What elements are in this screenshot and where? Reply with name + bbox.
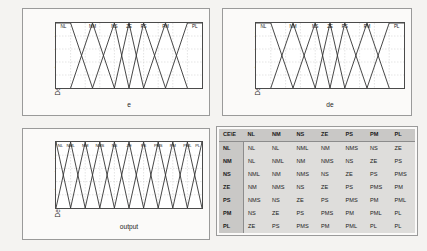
rule-cell-NL-NL: NL <box>244 142 269 156</box>
rule-cell-NS-NM: NM <box>268 168 293 181</box>
chart-panel-output: Degree of membership NLNMLNMNMSNSZEPSPMS… <box>22 128 210 240</box>
rule-cell-PL-ZE: PM <box>317 220 342 233</box>
rule-cell-PL-NL: ZE <box>244 220 269 233</box>
rule-table-row: NLNLNLNMLNMNMSNSZE <box>219 142 415 156</box>
rule-cell-PM-PM: PML <box>366 207 391 220</box>
rule-table-row-header-PM: PM <box>219 207 244 220</box>
rule-cell-ZE-ZE: ZE <box>317 181 342 194</box>
rule-cell-NM-PM: ZE <box>366 156 391 169</box>
rule-cell-NS-PL: PMS <box>391 168 416 181</box>
rule-table-head: CE\E NLNMNSZEPSPMPL <box>219 129 415 142</box>
chart-error: Degree of membership NLNMNSZEPSPMPL 00.2… <box>23 9 209 115</box>
rule-cell-ZE-PL: PM <box>391 181 416 194</box>
rule-cell-PM-PL: PL <box>391 207 416 220</box>
rule-table-col-header-NS: NS <box>293 129 318 142</box>
rule-cell-NM-NS: NM <box>293 156 318 169</box>
rule-cell-NM-NM: NML <box>268 156 293 169</box>
rule-cell-ZE-NS: NS <box>293 181 318 194</box>
rule-cell-NL-PM: NS <box>366 142 391 156</box>
rule-cell-PS-PM: PM <box>366 194 391 207</box>
rule-cell-NL-PS: NMS <box>342 142 367 156</box>
rule-table-row: PLZEPSPMSPMPMLPLPL <box>219 220 415 233</box>
rule-cell-ZE-PS: PS <box>342 181 367 194</box>
rule-table-row: NMNLNMLNMNMSNSZEPS <box>219 156 415 169</box>
x-axis-label-output: output <box>55 223 203 230</box>
rule-cell-PS-PS: PMS <box>342 194 367 207</box>
rule-cell-NL-PL: ZE <box>391 142 416 156</box>
rule-cell-PM-ZE: PMS <box>317 207 342 220</box>
rule-cell-PS-NS: ZE <box>293 194 318 207</box>
plot-area-output: NLNMLNMNMSNSZEPSPMSPMPMLPL 00.20.40.60.8… <box>55 141 203 209</box>
rule-table-row-header-PL: PL <box>219 220 244 233</box>
rule-cell-PM-NM: ZE <box>268 207 293 220</box>
rule-cell-PL-PM: PL <box>366 220 391 233</box>
mf-curve-NM <box>71 23 115 88</box>
rule-table-corner-header: CE\E <box>219 129 244 142</box>
mf-curve-PM <box>144 23 188 88</box>
rule-cell-NS-PM: PS <box>366 168 391 181</box>
rule-table-row-header-NM: NM <box>219 156 244 169</box>
rule-table-body: NLNLNLNMLNMNMSNSZENMNLNMLNMNMSNSZEPSNSNM… <box>219 142 415 234</box>
mf-curves-change-of-error <box>256 23 404 88</box>
chart-change-of-error: Degree of membership NLNMNSZEPSPMPL 00.2… <box>223 9 411 115</box>
rule-table-col-header-ZE: ZE <box>317 129 342 142</box>
rule-table-row-header-ZE: ZE <box>219 181 244 194</box>
rule-cell-NL-NS: NML <box>293 142 318 156</box>
figure-canvas: Degree of membership NLNMNSZEPSPMPL 00.2… <box>0 0 427 251</box>
fuzzy-rule-table: CE\E NLNMNSZEPSPMPL NLNLNLNMLNMNMSNSZENM… <box>219 129 415 233</box>
rule-cell-NL-ZE: NM <box>317 142 342 156</box>
rule-table-col-header-PL: PL <box>391 129 416 142</box>
rule-cell-PM-PS: PM <box>342 207 367 220</box>
rule-table-row: PSNMSNSZEPSPMSPMPML <box>219 194 415 207</box>
rule-cell-PM-NL: NS <box>244 207 269 220</box>
rule-cell-NS-ZE: NS <box>317 168 342 181</box>
chart-panel-error: Degree of membership NLNMNSZEPSPMPL 00.2… <box>22 8 210 116</box>
plot-area-change-of-error: NLNMNSZEPSPMPL 00.20.40.60.81-1-0.8-0.6-… <box>255 22 405 89</box>
rule-table-row-header-NS: NS <box>219 168 244 181</box>
rule-cell-NS-NL: NML <box>244 168 269 181</box>
rule-table-row-header-NL: NL <box>219 142 244 156</box>
rule-table-col-header-NL: NL <box>244 129 269 142</box>
rule-cell-PL-NS: PMS <box>293 220 318 233</box>
rule-cell-PL-PS: PML <box>342 220 367 233</box>
rule-cell-NM-PL: PS <box>391 156 416 169</box>
chart-panel-change-of-error: Degree of membership NLNMNSZEPSPMPL 00.2… <box>222 8 412 116</box>
rule-table-row: ZENMNMSNSZEPSPMSPM <box>219 181 415 194</box>
rule-table-col-header-NM: NM <box>268 129 293 142</box>
rule-cell-NS-PS: ZE <box>342 168 367 181</box>
rule-table-col-header-PM: PM <box>366 129 391 142</box>
rule-table-header-row: CE\E NLNMNSZEPSPMPL <box>219 129 415 142</box>
x-axis-label-error: e <box>55 101 203 108</box>
rule-table-row-header-PS: PS <box>219 194 244 207</box>
chart-output: Degree of membership NLNMLNMNMSNSZEPSPMS… <box>23 129 209 239</box>
rule-cell-NM-PS: NS <box>342 156 367 169</box>
rule-cell-NM-ZE: NMS <box>317 156 342 169</box>
rule-table-panel: CE\E NLNMNSZEPSPMPL NLNLNLNMLNMNMSNSZENM… <box>216 126 418 236</box>
rule-cell-PS-ZE: PS <box>317 194 342 207</box>
rule-table-col-header-PS: PS <box>342 129 367 142</box>
rule-cell-PS-NM: NS <box>268 194 293 207</box>
rule-table-row: PMNSZEPSPMSPMPMLPL <box>219 207 415 220</box>
rule-table-wrapper: CE\E NLNMNSZEPSPMPL NLNLNLNMLNMNMSNSZENM… <box>219 129 415 233</box>
rule-table-row: NSNMLNMNMSNSZEPSPMS <box>219 168 415 181</box>
mf-curve-PM <box>345 23 389 88</box>
rule-cell-ZE-NL: NM <box>244 181 269 194</box>
rule-cell-NM-NL: NL <box>244 156 269 169</box>
rule-cell-NS-NS: NMS <box>293 168 318 181</box>
mf-curves-output <box>56 142 202 208</box>
rule-cell-ZE-NM: NMS <box>268 181 293 194</box>
x-axis-label-change-of-error: de <box>255 101 405 108</box>
rule-cell-NL-NM: NL <box>268 142 293 156</box>
rule-cell-PS-NL: NMS <box>244 194 269 207</box>
plot-area-error: NLNMNSZEPSPMPL 00.20.40.60.81-1-0.8-0.6-… <box>55 22 203 89</box>
rule-cell-ZE-PM: PMS <box>366 181 391 194</box>
mf-curve-NM <box>271 23 315 88</box>
rule-cell-PL-PL: PL <box>391 220 416 233</box>
mf-curves-error <box>56 23 202 88</box>
rule-cell-PL-NM: PS <box>268 220 293 233</box>
rule-cell-PS-PL: PML <box>391 194 416 207</box>
rule-cell-PM-NS: PS <box>293 207 318 220</box>
